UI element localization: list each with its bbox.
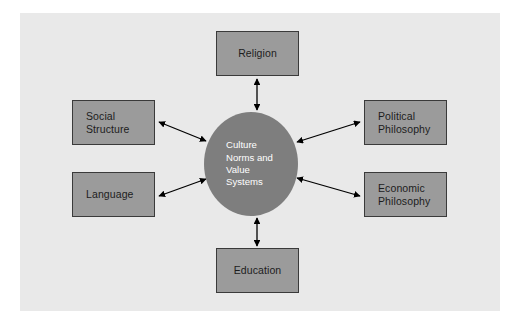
node-culture-label: Culture Norms and Value Systems <box>226 139 273 189</box>
node-culture-norms-value-systems[interactable]: Culture Norms and Value Systems <box>204 112 298 216</box>
node-economic-philosophy[interactable]: Economic Philosophy <box>364 172 447 217</box>
node-education[interactable]: Education <box>216 248 299 293</box>
node-education-label: Education <box>234 264 282 277</box>
node-language-label: Language <box>86 188 134 201</box>
node-religion-label: Religion <box>238 47 277 60</box>
node-political-philosophy[interactable]: Political Philosophy <box>364 100 447 145</box>
node-social-structure[interactable]: Social Structure <box>72 100 155 145</box>
node-religion[interactable]: Religion <box>216 31 299 76</box>
node-economic-philosophy-label: Economic Philosophy <box>378 182 430 208</box>
node-language[interactable]: Language <box>72 172 155 217</box>
culture-determinants-diagram: Religion Social Structure Language Polit… <box>0 0 515 328</box>
node-social-structure-label: Social Structure <box>86 110 130 136</box>
node-political-philosophy-label: Political Philosophy <box>378 110 430 136</box>
